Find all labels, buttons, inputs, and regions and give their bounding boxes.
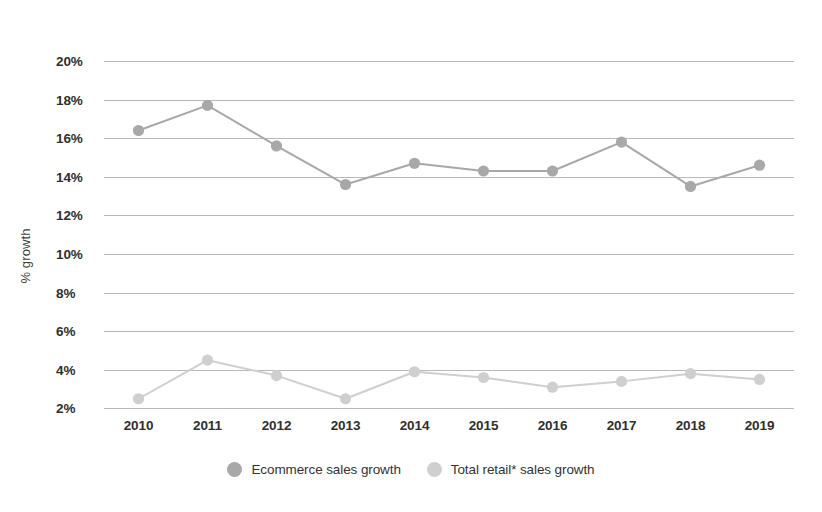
- gridline-8pct: [104, 293, 794, 294]
- y-tick-label: 6%: [56, 324, 102, 339]
- data-point: [409, 366, 420, 377]
- x-tick-label: 2019: [730, 418, 790, 433]
- gridline-4pct: [104, 370, 794, 371]
- data-point: [547, 165, 558, 176]
- gridline-6pct: [104, 331, 794, 332]
- growth-line-chart: % growth 20%18%16%14%12%10%8%6%4%2% 2010…: [0, 0, 822, 512]
- data-point: [340, 179, 351, 190]
- data-point: [133, 125, 144, 136]
- data-point: [478, 165, 489, 176]
- y-axis-title: % growth: [18, 196, 33, 316]
- x-tick-label: 2015: [454, 418, 514, 433]
- series-line: [139, 360, 760, 399]
- legend-swatch-icon: [427, 462, 442, 477]
- legend-item-total-retail[interactable]: Total retail* sales growth: [427, 462, 595, 477]
- legend-item-ecommerce[interactable]: Ecommerce sales growth: [227, 462, 400, 477]
- data-point: [271, 370, 282, 381]
- data-point: [133, 393, 144, 404]
- x-tick-label: 2012: [247, 418, 307, 433]
- data-point: [478, 372, 489, 383]
- x-tick-label: 2010: [109, 418, 169, 433]
- data-point: [271, 140, 282, 151]
- series-ecommerce: [133, 100, 765, 192]
- data-point: [409, 158, 420, 169]
- gridline-16pct: [104, 138, 794, 139]
- legend-swatch-icon: [227, 462, 242, 477]
- gridline-18pct: [104, 100, 794, 101]
- gridline-10pct: [104, 254, 794, 255]
- data-point: [754, 160, 765, 171]
- x-tick-label: 2016: [523, 418, 583, 433]
- y-tick-label: 14%: [56, 169, 102, 184]
- legend-label: Total retail* sales growth: [451, 462, 595, 477]
- data-point: [340, 393, 351, 404]
- x-tick-label: 2013: [316, 418, 376, 433]
- data-point: [547, 382, 558, 393]
- gridline-2pct: [104, 408, 794, 409]
- y-tick-label: 8%: [56, 285, 102, 300]
- y-tick-label: 2%: [56, 401, 102, 416]
- x-tick-label: 2014: [385, 418, 445, 433]
- x-tick-label: 2018: [661, 418, 721, 433]
- y-tick-label: 16%: [56, 131, 102, 146]
- y-tick-label: 4%: [56, 362, 102, 377]
- gridline-14pct: [104, 177, 794, 178]
- y-tick-label: 10%: [56, 247, 102, 262]
- series-line: [139, 105, 760, 186]
- chart-legend: Ecommerce sales growthTotal retail* sale…: [0, 462, 822, 477]
- x-tick-label: 2011: [178, 418, 238, 433]
- y-tick-label: 20%: [56, 54, 102, 69]
- plot-area: [0, 0, 822, 512]
- data-point: [202, 355, 213, 366]
- data-point: [616, 376, 627, 387]
- y-tick-label: 18%: [56, 92, 102, 107]
- data-point: [685, 181, 696, 192]
- x-tick-label: 2017: [592, 418, 652, 433]
- data-point: [202, 100, 213, 111]
- y-tick-label: 12%: [56, 208, 102, 223]
- data-point: [754, 374, 765, 385]
- series-total-retail: [133, 355, 765, 405]
- legend-label: Ecommerce sales growth: [251, 462, 400, 477]
- gridline-12pct: [104, 215, 794, 216]
- gridline-20pct: [104, 61, 794, 62]
